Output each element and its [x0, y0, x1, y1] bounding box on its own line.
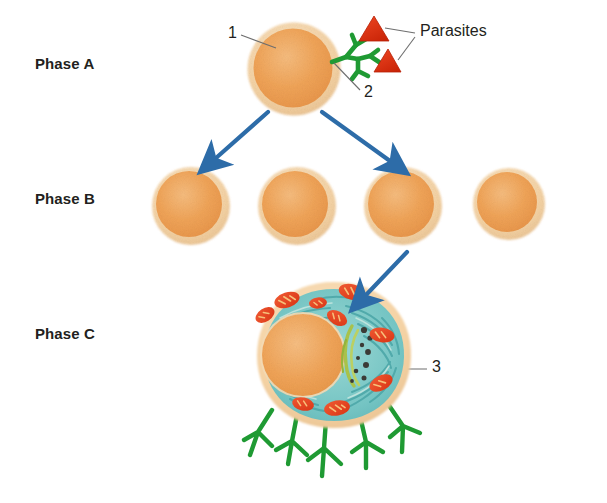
phase-a-cell [248, 23, 341, 116]
phase-label-b: Phase B [35, 190, 95, 207]
phase-b-cell-1 [152, 167, 230, 245]
leader-line-parasites-lower [398, 37, 415, 60]
arrow-a-to-b-right [322, 112, 390, 161]
arrow-b-to-c [366, 252, 407, 295]
phase-b-cell-2 [258, 167, 336, 245]
parasites-label: Parasites [420, 22, 487, 40]
phase-label-c: Phase C [35, 325, 95, 342]
callout-label-1: 1 [228, 24, 237, 42]
callout-label-2: 2 [364, 83, 373, 101]
arrow-a-to-b-left [216, 112, 268, 158]
leader-line-parasites-upper [385, 28, 415, 33]
phase-b-cell-3 [364, 167, 442, 245]
phase-label-a: Phase A [35, 55, 94, 72]
diagram-canvas: Phase A Phase B Phase C 1 2 3 Parasites [0, 0, 607, 503]
phase-c-cell [244, 281, 420, 476]
callout-label-3: 3 [432, 358, 441, 376]
diagram-artwork [0, 0, 607, 503]
parasite-triangle-1 [359, 16, 389, 41]
phase-b-cell-4 [473, 168, 545, 240]
